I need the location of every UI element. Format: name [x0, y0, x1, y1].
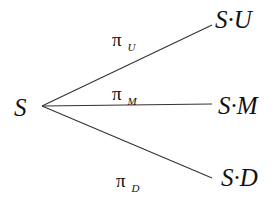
prob-down-label: πD	[116, 171, 134, 190]
edge-middle	[42, 104, 212, 106]
node-middle-label: S·M	[218, 93, 258, 118]
prob-middle-label: πM	[112, 84, 131, 103]
prob-subscript: M	[128, 95, 137, 107]
node-up-label: S·U	[215, 7, 252, 32]
pi-symbol: π	[112, 29, 122, 50]
node-down-label: S·D	[221, 165, 258, 190]
edge-down	[42, 106, 212, 178]
pi-symbol: π	[112, 83, 122, 104]
prob-subscript: D	[132, 182, 140, 194]
prob-up-label: πU	[112, 30, 130, 49]
pi-symbol: π	[116, 170, 126, 191]
root-node-label: S	[14, 95, 27, 120]
prob-subscript: U	[128, 41, 136, 53]
